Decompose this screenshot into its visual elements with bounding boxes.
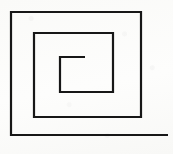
figure-canvas [0,0,173,154]
spiral-polyline [11,12,168,135]
rectangular-spiral-drawing [0,0,173,154]
